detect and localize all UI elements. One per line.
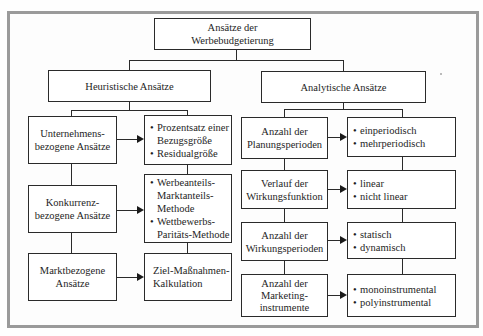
category-line: Marketing- bbox=[261, 290, 308, 302]
item-line: Paritäts-Methode bbox=[157, 228, 229, 241]
item-line: monoinstrumental bbox=[360, 283, 436, 296]
bullet-icon: • bbox=[353, 190, 360, 203]
bullet-icon: • bbox=[353, 296, 360, 309]
connector bbox=[284, 208, 285, 222]
category-wirkungsfunktion: Verlauf der Wirkungsfunktion bbox=[241, 170, 328, 209]
category-konkurrenzbezogen: Konkurrenz- bezogene Ansätze bbox=[28, 185, 117, 233]
category-line: Marktbezogene bbox=[40, 264, 105, 277]
item-line: Kalkulation bbox=[153, 277, 203, 290]
category-line: instrumente bbox=[260, 302, 310, 314]
branch-heuristic: Heuristische Ansätze bbox=[48, 70, 211, 102]
list-item: • monoinstrumental bbox=[353, 283, 436, 296]
connector bbox=[187, 242, 188, 253]
connector bbox=[343, 60, 344, 71]
item-line: Ziel-Maßnahmen- bbox=[153, 264, 229, 277]
list-item: • linear bbox=[353, 177, 384, 190]
scan-speck bbox=[440, 73, 442, 75]
arrow-line bbox=[117, 210, 138, 211]
connector bbox=[402, 156, 403, 170]
arrow-head-icon bbox=[340, 236, 347, 244]
connector bbox=[187, 164, 188, 174]
bullet-icon: • bbox=[353, 137, 360, 150]
category-line: Wirkungsfunktion bbox=[246, 190, 323, 203]
branch-heuristic-title: Heuristische Ansätze bbox=[85, 80, 173, 93]
methods-marktbezogen: Ziel-Maßnahmen- Kalkulation bbox=[144, 253, 232, 301]
connector bbox=[129, 60, 130, 70]
arrow-line bbox=[117, 277, 138, 278]
item-line: Prozentsatz einer bbox=[157, 121, 229, 134]
bullet-icon: • bbox=[150, 176, 157, 215]
root-node-line-1: Ansätze der bbox=[208, 21, 258, 34]
category-unternehmensbezogen: Unternehmens- bezogene Ansätze bbox=[28, 116, 117, 164]
item-line: Methode bbox=[157, 202, 215, 215]
options-wirkungsfunktion: • linear • nicht linear bbox=[347, 170, 456, 209]
bullet-icon: • bbox=[150, 147, 157, 160]
connector bbox=[402, 258, 403, 274]
item-line: polyinstrumental bbox=[360, 296, 431, 309]
arrow-head-icon bbox=[137, 273, 144, 281]
list-item: • Prozentsatz einer Bezugsgröße bbox=[150, 121, 229, 147]
bullet-icon: • bbox=[353, 228, 360, 241]
arrow-line bbox=[117, 139, 138, 140]
bullet-icon: • bbox=[353, 283, 360, 296]
connector bbox=[284, 158, 285, 170]
category-line: Anzahl der bbox=[261, 278, 307, 290]
category-marketinginstrumente: Anzahl der Marketing- instrumente bbox=[241, 274, 328, 317]
branch-analytic: Analytische Ansätze bbox=[261, 71, 426, 103]
connector bbox=[71, 163, 72, 185]
connector bbox=[284, 260, 285, 274]
connector bbox=[129, 60, 343, 61]
category-line: Wirkungsperioden bbox=[246, 242, 324, 255]
list-item: • dynamisch bbox=[353, 241, 406, 254]
category-line: Unternehmens- bbox=[40, 127, 105, 140]
bullet-icon: • bbox=[150, 121, 157, 147]
item-line: Bezugsgröße bbox=[157, 134, 229, 147]
category-marktbezogen: Marktbezogene Ansätze bbox=[28, 253, 117, 301]
options-planungsperioden: • einperiodisch • mehrperiodisch bbox=[347, 117, 456, 157]
connector bbox=[129, 102, 130, 110]
arrow-head-icon bbox=[137, 135, 144, 143]
category-line: Planungsperioden bbox=[247, 138, 322, 151]
root-node: Ansätze der Werbebudgetierung bbox=[154, 18, 311, 50]
item-line: Wettbewerbs- bbox=[157, 215, 229, 228]
item-line: linear bbox=[360, 177, 384, 190]
bullet-icon: • bbox=[150, 215, 157, 241]
methods-konkurrenzbezogen: • Werbeanteils- Marktanteils- Methode • … bbox=[144, 174, 232, 243]
item-line: mehrperiodisch bbox=[360, 137, 425, 150]
arrow-head-icon bbox=[340, 133, 347, 141]
branch-analytic-title: Analytische Ansätze bbox=[300, 81, 386, 94]
list-item: • Werbeanteils- Marktanteils- Methode bbox=[150, 176, 215, 215]
item-line: Marktanteils- bbox=[157, 189, 215, 202]
list-item: • Wettbewerbs- Paritäts-Methode bbox=[150, 215, 229, 241]
connector bbox=[402, 109, 403, 117]
connector bbox=[402, 208, 403, 222]
list-item: • einperiodisch bbox=[353, 124, 417, 137]
category-line: Konkurrenz- bbox=[46, 196, 100, 209]
root-node-line-2: Werbebudgetierung bbox=[191, 34, 274, 47]
item-line: nicht linear bbox=[360, 190, 408, 203]
bullet-icon: • bbox=[353, 177, 360, 190]
category-line: Anzahl der bbox=[261, 125, 307, 138]
connector bbox=[236, 50, 237, 60]
list-item: • mehrperiodisch bbox=[353, 137, 425, 150]
bullet-icon: • bbox=[353, 124, 360, 137]
list-item: • Residualgröße bbox=[150, 147, 218, 160]
item-line: dynamisch bbox=[360, 241, 406, 254]
item-line: statisch bbox=[360, 228, 392, 241]
methods-unternehmensbezogen: • Prozentsatz einer Bezugsgröße • Residu… bbox=[144, 115, 232, 165]
connector bbox=[71, 232, 72, 253]
category-planungsperioden: Anzahl der Planungsperioden bbox=[241, 117, 328, 159]
list-item: • nicht linear bbox=[353, 190, 408, 203]
options-marketinginstrumente: • monoinstrumental • polyinstrumental bbox=[347, 274, 456, 317]
list-item: • statisch bbox=[353, 228, 392, 241]
item-line: Residualgröße bbox=[157, 148, 218, 159]
category-line: Anzahl der bbox=[261, 229, 307, 242]
category-wirkungsperioden: Anzahl der Wirkungsperioden bbox=[241, 222, 328, 261]
arrow-head-icon bbox=[340, 291, 347, 299]
bullet-icon: • bbox=[353, 241, 360, 254]
arrow-head-icon bbox=[137, 206, 144, 214]
category-line: Verlauf der bbox=[261, 177, 308, 190]
item-line: Werbeanteils- bbox=[157, 176, 215, 189]
category-line: Ansätze bbox=[56, 277, 90, 290]
connector bbox=[284, 109, 403, 110]
